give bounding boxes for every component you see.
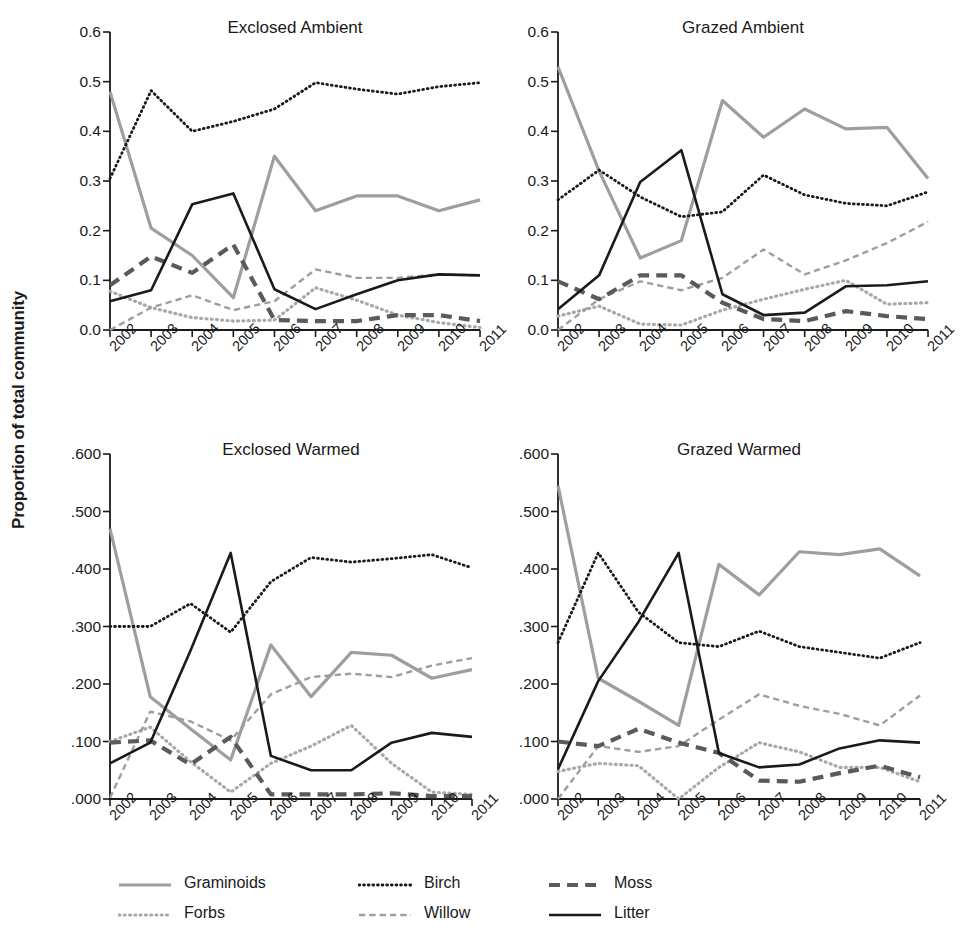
series-line-graminoids bbox=[558, 67, 928, 258]
plot-area bbox=[48, 18, 490, 344]
series-line-graminoids bbox=[558, 486, 920, 726]
legend-label: Birch bbox=[424, 874, 460, 892]
legend-swatch-graminoids bbox=[118, 877, 172, 889]
legend-label: Graminoids bbox=[184, 874, 266, 892]
legend-item-birch[interactable]: Birch bbox=[358, 872, 460, 894]
chart-panel-4: Grazed Warmed.000.100.200.300.400.500.60… bbox=[488, 440, 930, 879]
legend-item-moss[interactable]: Moss bbox=[548, 872, 652, 894]
legend-item-litter[interactable]: Litter bbox=[548, 902, 650, 924]
legend-label: Willow bbox=[424, 904, 470, 922]
legend-swatch-forbs bbox=[118, 907, 172, 919]
series-line-willow bbox=[110, 658, 472, 798]
plot-area bbox=[488, 440, 930, 813]
series-line-birch bbox=[558, 553, 920, 658]
legend-label: Forbs bbox=[184, 904, 225, 922]
legend-item-graminoids[interactable]: Graminoids bbox=[118, 872, 266, 894]
legend-swatch-litter bbox=[548, 907, 602, 919]
legend-swatch-moss bbox=[548, 877, 602, 889]
chart-panel-2: Grazed Ambient0.00.10.20.30.40.50.620022… bbox=[496, 18, 938, 410]
series-line-willow bbox=[558, 694, 920, 799]
legend-swatch-willow bbox=[358, 907, 412, 919]
legend-label: Litter bbox=[614, 904, 650, 922]
legend-item-willow[interactable]: Willow bbox=[358, 902, 470, 924]
y-axis-title: Proportion of total community bbox=[2, 0, 36, 820]
figure-legend: GraminoidsForbsBirchWillowMossLitter bbox=[118, 872, 818, 932]
legend-swatch-birch bbox=[358, 877, 412, 889]
series-line-forbs bbox=[558, 280, 928, 325]
series-line-birch bbox=[558, 170, 928, 217]
series-line-moss bbox=[110, 737, 472, 796]
series-line-litter bbox=[110, 193, 480, 309]
series-line-litter bbox=[558, 553, 920, 769]
series-line-birch bbox=[110, 83, 480, 179]
chart-panel-1: Exclosed Ambient0.00.10.20.30.40.50.6200… bbox=[48, 18, 490, 410]
legend-label: Moss bbox=[614, 874, 652, 892]
plot-area bbox=[496, 18, 938, 344]
series-line-graminoids bbox=[110, 92, 480, 298]
series-line-moss bbox=[558, 275, 928, 321]
series-line-litter bbox=[110, 553, 472, 770]
series-line-graminoids bbox=[110, 529, 472, 760]
chart-panel-3: Exclosed Warmed.000.100.200.300.400.500.… bbox=[40, 440, 482, 879]
figure-panel-grid: Proportion of total community Exclosed A… bbox=[0, 0, 960, 945]
legend-item-forbs[interactable]: Forbs bbox=[118, 902, 225, 924]
plot-area bbox=[40, 440, 482, 813]
series-line-birch bbox=[110, 555, 472, 633]
y-axis-title-text: Proportion of total community bbox=[9, 291, 29, 529]
